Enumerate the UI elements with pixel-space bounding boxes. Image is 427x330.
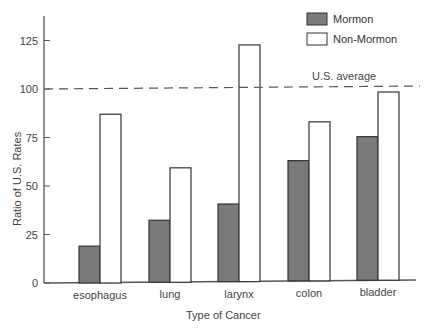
y-tick-label: 25	[26, 229, 38, 241]
legend-label-mormon: Mormon	[333, 13, 373, 25]
x-axis-title: Type of Cancer	[186, 309, 261, 321]
x-category-label: bladder	[360, 286, 397, 298]
x-category-label: larynx	[224, 288, 254, 300]
bar-bladder-mormon	[357, 137, 378, 281]
legend-swatch-mormon	[307, 13, 327, 25]
bar-lung-non-mormon	[170, 168, 191, 282]
bar-colon-mormon	[288, 161, 309, 281]
x-category-label: lung	[160, 288, 181, 300]
y-tick-label: 0	[32, 277, 38, 289]
y-tick-label: 75	[26, 132, 38, 144]
bar-colon-non-mormon	[309, 122, 330, 281]
legend-label-non-mormon: Non-Mormon	[333, 33, 397, 45]
y-tick-label: 100	[20, 83, 38, 95]
legend: Mormon Non-Mormon	[307, 13, 397, 45]
us-average-label: U.S. average	[312, 70, 376, 82]
y-axis-title: Ratio of U.S. Rates	[11, 131, 23, 226]
y-tick-label: 125	[20, 35, 38, 47]
bar-bladder-non-mormon	[378, 92, 399, 280]
bar-chart: 0255075100125 U.S. average esophaguslung…	[0, 0, 427, 330]
bar-larynx-non-mormon	[239, 45, 260, 282]
x-category-label: colon	[296, 287, 322, 299]
bar-lung-mormon	[149, 220, 170, 282]
us-average-reference-line	[44, 86, 420, 89]
bar-larynx-mormon	[218, 204, 239, 282]
bar-esophagus-mormon	[79, 246, 100, 283]
legend-swatch-non-mormon	[307, 33, 327, 45]
x-category-label: esophagus	[73, 289, 127, 301]
y-axis-ticks: 0255075100125	[20, 35, 50, 290]
category-labels: esophaguslunglarynxcolonbladder	[73, 286, 397, 301]
bar-esophagus-non-mormon	[100, 114, 121, 283]
y-tick-label: 50	[26, 180, 38, 192]
